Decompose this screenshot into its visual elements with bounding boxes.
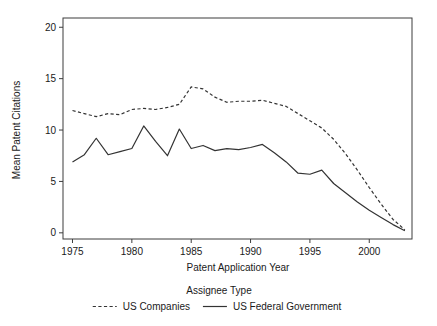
x-axis-title: Patent Application Year [187,262,291,273]
chart-container: 05101520 197519801985199019952000 Patent… [0,0,437,326]
x-tick-label: 1980 [121,246,144,257]
y-tick-label: 10 [45,125,57,136]
chart-background [0,0,437,326]
legend-label: US Federal Government [233,301,342,312]
y-tick-label: 0 [50,227,56,238]
legend-label: US Companies [123,301,190,312]
x-tick-label: 1985 [180,246,203,257]
x-tick-label: 1995 [299,246,322,257]
line-chart: 05101520 197519801985199019952000 Patent… [0,0,437,326]
x-tick-label: 2000 [358,246,381,257]
y-axis-title: Mean Patent Citations [11,81,22,179]
x-tick-label: 1975 [61,246,84,257]
y-tick-label: 5 [50,176,56,187]
y-tick-label: 15 [45,73,57,84]
legend-title: Assignee Type [186,285,252,296]
y-tick-label: 20 [45,22,57,33]
x-tick-label: 1990 [239,246,262,257]
